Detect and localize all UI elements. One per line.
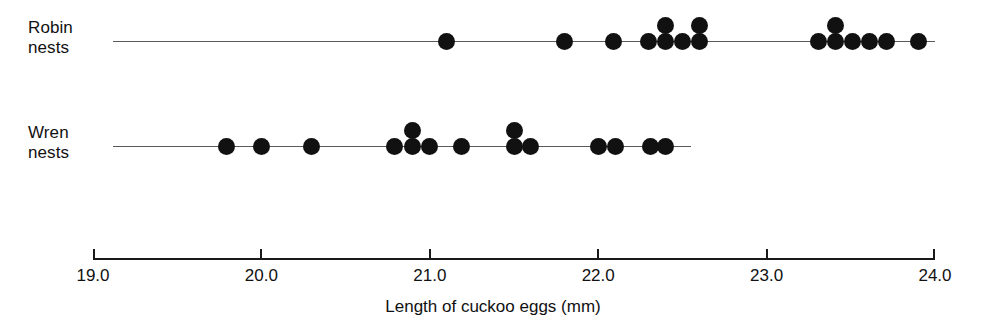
dot-plot-chart: Robin nests Wren nests 19.020.021.022.02… [0,0,986,332]
data-point [522,138,539,155]
series-label-wren-nests: Wren nests [28,123,69,163]
data-point [878,33,895,50]
data-point [910,33,927,50]
data-point [810,33,827,50]
data-point [674,33,691,50]
x-axis-tick [429,249,431,258]
data-point [453,138,470,155]
data-point [827,17,844,34]
data-point [657,33,674,50]
x-axis-tick [766,249,768,258]
x-axis-tick [260,249,262,258]
x-axis-tick-label: 22.0 [582,266,615,286]
data-point [605,33,622,50]
data-point [506,122,523,139]
data-point [691,17,708,34]
data-point [218,138,235,155]
x-axis-tick-label: 24.0 [918,266,951,286]
data-point [590,138,607,155]
data-point [607,138,624,155]
data-point [421,138,438,155]
data-point [657,138,674,155]
x-axis-tick [93,249,95,258]
data-point [404,122,421,139]
x-axis-tick-label: 21.0 [413,266,446,286]
x-axis-title: Length of cuckoo eggs (mm) [0,297,986,317]
data-point [827,33,844,50]
data-point [303,138,320,155]
x-axis-tick [933,249,935,258]
data-point [844,33,861,50]
x-axis-tick-label: 19.0 [76,266,109,286]
data-point [861,33,878,50]
data-point [386,138,403,155]
data-point [556,33,573,50]
data-point [640,33,657,50]
x-axis-tick-label: 20.0 [245,266,278,286]
data-point [438,33,455,50]
data-point [253,138,270,155]
series-label-robin-nests: Robin nests [28,18,73,58]
x-axis-tick [597,249,599,258]
x-axis-tick-label: 23.0 [750,266,783,286]
data-point [691,33,708,50]
data-point [506,138,523,155]
data-point [657,17,674,34]
data-point [404,138,421,155]
x-axis-line [93,258,935,260]
